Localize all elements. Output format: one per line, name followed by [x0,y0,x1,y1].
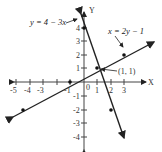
x-tick-label: 2 [109,86,113,95]
y-tick-label: -1 [73,92,80,101]
intersection-label: (1, 1) [118,67,136,76]
x-tick-label: -4 [24,86,31,95]
x-tick-label: -5 [10,86,17,95]
equation-label-2: x = 2y − 1 [107,26,144,36]
y-tick-label: 3 [76,37,80,46]
y-tick-label: 4 [76,24,80,33]
coordinate-graph: y = 4 − 3x x = 2y − 1 (1, 1) X Y 0 -5 -4… [0,0,162,152]
equation-label-1: y = 4 − 3x [29,17,66,27]
y-tick-label: -3 [73,119,80,128]
y-tick-label: 1 [76,64,80,73]
origin-label: 0 [86,83,90,92]
x-axis-label: X [148,78,154,87]
x-tick-label: 1 [95,86,99,95]
x-tick-label: 3 [122,86,126,95]
y-axis-label: Y [89,6,95,15]
y-tick-label: 2 [76,51,80,60]
x-tick-label: -3 [37,86,44,95]
y-tick-label: -2 [73,106,80,115]
y-tick-label: -4 [73,133,80,142]
x-tick-label: -1 [64,86,71,95]
